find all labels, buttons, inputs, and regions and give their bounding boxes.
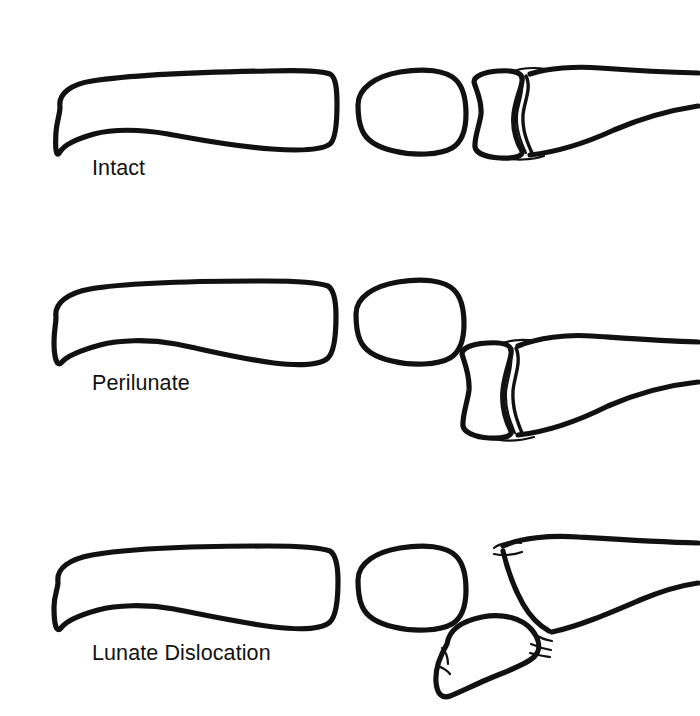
capitate-outline-intact	[358, 70, 466, 154]
radius-dorsal-tip-under-dislocation	[494, 552, 522, 555]
panel-label-lunate-dislocation: Lunate Dislocation	[92, 641, 271, 665]
lunate-outline-dislocation	[436, 616, 539, 697]
radius-volar-shaft-intact	[530, 106, 698, 155]
radius-volar-shaft-dislocation	[552, 583, 698, 632]
capitate-outline-dislocation	[358, 546, 466, 630]
lunate-articular-line-perilunate	[513, 348, 522, 433]
capitate-outline-perilunate	[356, 280, 464, 364]
panel-lunate-dislocation: Lunate Dislocation	[54, 536, 698, 696]
metacarpal-outline-dislocation	[54, 546, 338, 630]
radius-outline-perilunate	[518, 335, 698, 346]
metacarpal-outline-intact	[56, 71, 337, 155]
panel-perilunate: Perilunate	[54, 280, 698, 440]
panel-label-perilunate: Perilunate	[92, 371, 190, 395]
radius-volar-shaft-perilunate	[518, 382, 698, 435]
panel-intact: Intact	[56, 67, 698, 180]
wrist-alignment-figure: Intact Perilunate	[0, 0, 700, 716]
lunate-edge-mark-2-dislocation	[438, 666, 450, 674]
metacarpal-outline-perilunate	[54, 281, 336, 365]
lunate-outline-intact	[474, 71, 522, 158]
lunate-articular-line-intact	[523, 76, 532, 153]
panel-label-intact: Intact	[92, 156, 145, 180]
radius-dorsal-shaft-dislocation	[503, 536, 698, 546]
radius-outline-intact	[530, 67, 698, 74]
lunate-outline-perilunate	[462, 343, 511, 438]
